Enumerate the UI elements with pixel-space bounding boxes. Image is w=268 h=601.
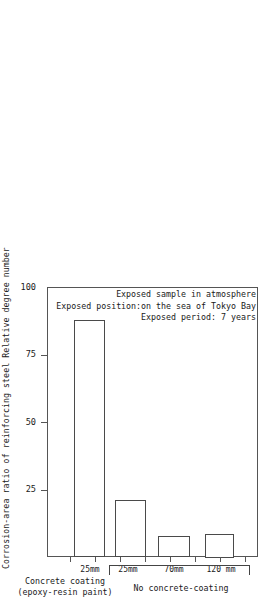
x-tick-mark-5 [170,557,171,562]
x-tick-mark-4 [145,557,146,562]
y-tick-label-50: 50 [6,418,36,427]
x-tick-mark-2 [95,557,96,562]
bar-2 [115,500,146,557]
x-tick-mark-6 [195,557,196,562]
group-label-no-concrete-coating: No concrete-coating [118,583,244,594]
annotation-line-1: Exposed sample in atmosphere [56,289,256,300]
y-tick-label-100: 100 [6,283,36,292]
x-tick-mark-1 [70,557,71,562]
x-tick-mark-7 [220,557,221,562]
y-axis-title: Corrosion-area ratio of reinforcing stee… [0,247,12,569]
group-bracket-no-coating [109,565,250,575]
annotation-line-2: Exposed position:on the sea of Tokyo Bay [56,301,256,312]
x-tick-mark-3 [120,557,121,562]
bar-4 [205,534,234,558]
x-tick-mark-8 [245,557,246,562]
group-label-concrete-coating: Concrete coating [20,576,110,587]
y-tick-label-25: 25 [6,485,36,494]
y-tick-label-75: 75 [6,350,36,359]
bar-3 [158,536,190,558]
bar-1 [74,320,105,558]
annotation-block: Exposed sample in atmosphere Exposed pos… [56,289,256,323]
bar-chart-figure: Corrosion-area ratio of reinforcing stee… [0,273,268,284]
group-sublabel-epoxy-resin: (epoxy-resin paint) [16,587,114,598]
page-caption-partial [18,599,25,601]
